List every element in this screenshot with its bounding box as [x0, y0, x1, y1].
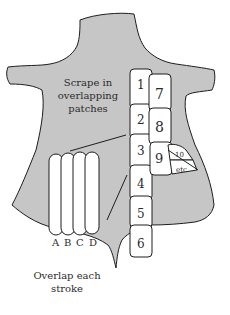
strokes-group — [49, 152, 99, 235]
stroke-label-a: A — [51, 237, 60, 248]
patch-label-etc: etc — [176, 166, 187, 174]
hide-shape — [7, 13, 215, 268]
patch-label-8: 8 — [155, 119, 164, 135]
patch-label-10: 10 — [175, 151, 184, 159]
stroke-label-b: B — [64, 237, 71, 248]
patch-label-6: 6 — [137, 237, 145, 251]
caption-top-line2: overlapping — [58, 90, 119, 101]
patch-label-3: 3 — [137, 144, 145, 158]
caption-bottom-line1: Overlap each — [33, 270, 101, 281]
patch-label-1: 1 — [137, 78, 145, 92]
patch-label-7: 7 — [155, 86, 164, 102]
stroke-label-c: C — [76, 237, 84, 248]
patch-label-4: 4 — [137, 177, 145, 191]
patch-label-5: 5 — [137, 207, 145, 221]
caption-bottom-line2: stroke — [51, 283, 83, 294]
patch-label-2: 2 — [137, 113, 145, 127]
caption-top-line3: patches — [68, 103, 107, 114]
stroke-d — [85, 152, 99, 234]
hide-scraping-diagram: 1 2 3 4 5 6 7 8 9 10 etc A B C D Scrape … — [0, 0, 230, 315]
caption-top-line1: Scrape in — [64, 77, 113, 88]
stroke-label-d: D — [89, 237, 97, 248]
patch-label-9: 9 — [155, 151, 163, 166]
